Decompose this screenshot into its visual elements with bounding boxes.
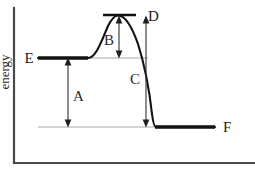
reaction-curve-group	[38, 16, 215, 128]
reactant-level-label: E	[24, 50, 33, 66]
level-labels-group: E D F	[24, 8, 231, 135]
guide-lines-group	[38, 58, 160, 127]
measurement-arrow-b: B	[104, 16, 122, 59]
axes-group: energy	[0, 8, 255, 163]
product-level-label: F	[223, 119, 231, 135]
energy-levels-group	[38, 15, 215, 127]
energy-diagram: energy A B	[0, 0, 255, 181]
arrow-a-label: A	[73, 88, 84, 104]
measurement-arrow-a: A	[65, 58, 84, 128]
arrow-b-label: B	[104, 32, 114, 48]
arrow-c-head-down	[143, 120, 150, 128]
energy-diagram-canvas: energy A B	[0, 0, 255, 181]
transition-state-label: D	[148, 8, 159, 24]
reaction-path-curve	[38, 16, 215, 128]
arrow-a-head-down	[65, 120, 72, 128]
arrow-b-head-down	[116, 51, 123, 59]
arrow-c-label: C	[130, 71, 140, 87]
y-axis-label: energy	[0, 54, 12, 90]
